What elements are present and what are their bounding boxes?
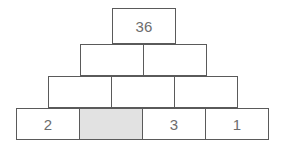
number-pyramid-diagram: 36 231 <box>0 0 285 148</box>
pyramid-cell-empty <box>48 76 112 108</box>
pyramid-cell-value: 1 <box>205 108 269 140</box>
pyramid-row-second <box>80 44 207 76</box>
pyramid-cell-empty <box>174 76 238 108</box>
pyramid-row-base: 231 <box>16 108 269 140</box>
pyramid-cell-value: 3 <box>142 108 206 140</box>
pyramid-row-top: 36 <box>112 8 176 44</box>
pyramid-row-third <box>48 76 238 108</box>
pyramid-cell-empty <box>111 76 175 108</box>
pyramid-cell-value: 2 <box>16 108 80 140</box>
pyramid-cell-empty <box>143 44 207 76</box>
pyramid-cell-empty <box>80 44 144 76</box>
pyramid-cell-shaded <box>79 108 143 140</box>
pyramid-cell-value: 36 <box>112 8 176 44</box>
